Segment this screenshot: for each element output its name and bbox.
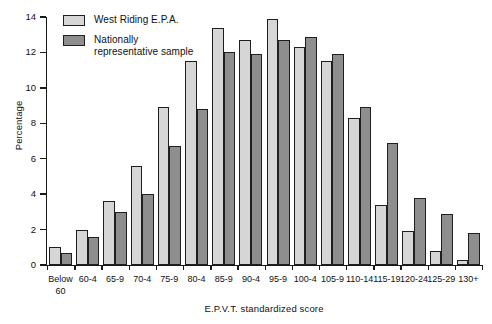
x-tick <box>183 265 184 270</box>
bar-series-b <box>142 194 154 265</box>
bar-series-b <box>468 233 480 265</box>
bar-group <box>237 17 264 265</box>
bar-series-a <box>321 61 333 265</box>
x-tick <box>292 265 293 270</box>
bar-series-b <box>88 237 100 265</box>
bar-series-b <box>115 212 127 265</box>
bar-series-b <box>278 40 290 265</box>
bar-series-b <box>224 52 236 265</box>
y-tick-14 <box>40 16 46 17</box>
legend-label-series-a: West Riding E.P.A. <box>94 14 178 27</box>
bar-group <box>428 17 455 265</box>
bar-group <box>455 17 482 265</box>
y-tick-label-10: 10 <box>10 82 36 93</box>
y-tick-label-6: 6 <box>10 153 36 164</box>
bar-series-b <box>441 214 453 265</box>
bar-series-a <box>402 231 414 265</box>
x-tick <box>74 265 75 270</box>
x-tick <box>373 265 374 270</box>
x-tick <box>265 265 266 270</box>
bar-series-a <box>267 19 279 265</box>
y-tick-label-2: 2 <box>10 224 36 235</box>
x-tick <box>101 265 102 270</box>
bar-series-b <box>61 253 73 265</box>
bar-series-a <box>212 28 224 265</box>
y-tick-6 <box>40 158 46 159</box>
bar-series-b <box>169 146 181 265</box>
bar-series-a <box>158 107 170 265</box>
bar-group <box>400 17 427 265</box>
y-tick-label-12: 12 <box>10 46 36 57</box>
y-tick-4 <box>40 193 46 194</box>
x-axis-title: E.P.V.T. standardized score <box>46 303 482 314</box>
bar-series-a <box>76 230 88 265</box>
bar-series-a <box>239 40 251 265</box>
x-tick <box>428 265 429 270</box>
legend-swatch-icon-series-b <box>63 35 85 46</box>
bar-group <box>292 17 319 265</box>
legend-item-west-riding: West Riding E.P.A. <box>63 14 193 27</box>
bar-series-a <box>457 260 469 265</box>
legend-label-series-b: Nationally representative sample <box>94 34 193 59</box>
bar-series-a <box>185 61 197 265</box>
x-tick <box>319 265 320 270</box>
bar-series-a <box>131 166 143 265</box>
bar-group <box>265 17 292 265</box>
y-tick-2 <box>40 229 46 230</box>
y-tick-label-8: 8 <box>10 117 36 128</box>
y-tick-label-14: 14 <box>10 11 36 22</box>
x-tick <box>237 265 238 270</box>
x-tick <box>482 265 483 270</box>
bar-series-a <box>430 251 442 265</box>
bar-series-a <box>348 118 360 265</box>
bar-series-b <box>414 198 426 265</box>
bar-series-b <box>332 54 344 265</box>
bar-series-a <box>103 201 115 265</box>
y-tick-10 <box>40 87 46 88</box>
x-tick <box>210 265 211 270</box>
y-tick-label-4: 4 <box>10 188 36 199</box>
x-tick <box>400 265 401 270</box>
x-tick-label: 130+ <box>451 274 486 286</box>
bar-series-b <box>197 109 209 265</box>
legend: West Riding E.P.A. Nationally representa… <box>63 14 193 66</box>
bar-group <box>210 17 237 265</box>
y-tick-label-0: 0 <box>10 259 36 270</box>
bar-series-b <box>360 107 372 265</box>
x-tick <box>156 265 157 270</box>
bar-series-a <box>294 47 306 265</box>
y-tick-12 <box>40 52 46 53</box>
bar-chart: Percentage 02468101214 Below 6060-465-97… <box>0 0 492 324</box>
x-tick <box>47 265 48 270</box>
x-tick <box>455 265 456 270</box>
bar-series-b <box>305 37 317 266</box>
bar-series-a <box>49 247 61 265</box>
bar-group <box>346 17 373 265</box>
legend-swatch-icon-series-a <box>63 15 85 26</box>
y-tick-8 <box>40 123 46 124</box>
legend-item-national: Nationally representative sample <box>63 34 193 59</box>
bar-series-a <box>375 205 387 265</box>
x-tick <box>129 265 130 270</box>
bar-group <box>319 17 346 265</box>
bar-series-b <box>387 143 399 265</box>
bar-series-b <box>251 54 263 265</box>
x-tick <box>346 265 347 270</box>
bar-group <box>373 17 400 265</box>
